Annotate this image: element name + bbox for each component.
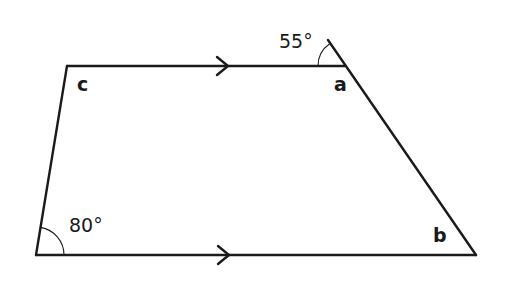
right-edge-extended (328, 40, 476, 255)
trapezium-diagram: c a b 55° 80° (0, 0, 511, 282)
vertex-label-c: c (77, 75, 88, 94)
angle-label-80: 80° (69, 216, 103, 235)
vertex-label-a: a (334, 75, 347, 94)
angle-label-55: 55° (279, 32, 313, 51)
vertex-label-b: b (433, 226, 447, 245)
angle-arc-55 (318, 44, 330, 66)
left-edge (36, 66, 67, 255)
angle-arc-80 (41, 227, 65, 255)
